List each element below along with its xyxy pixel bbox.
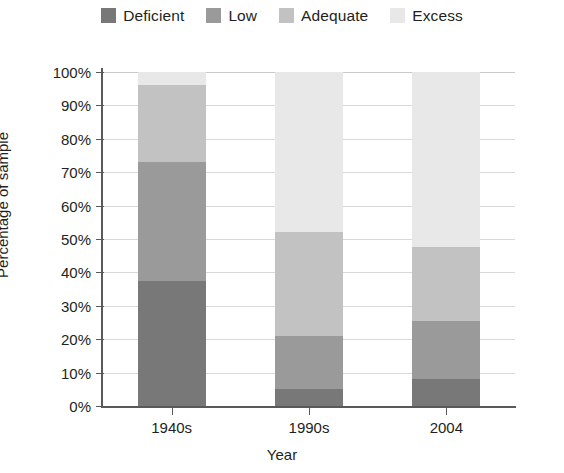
x-tick-label-1990s: 1990s: [289, 419, 330, 436]
y-axis-tick: [96, 406, 104, 407]
y-tick-label: 20%: [61, 331, 91, 348]
x-axis-tick: [446, 406, 447, 415]
bar-segment-2004-low: [412, 321, 480, 379]
chart-legend: Deficient Low Adequate Excess: [0, 8, 564, 23]
bar-1990s: [275, 72, 343, 406]
y-tick-label: 90%: [61, 97, 91, 114]
legend-swatch-deficient: [101, 8, 116, 23]
y-axis-title: Percentage of sample: [0, 132, 11, 278]
y-axis-tick: [96, 105, 104, 106]
bar-segment-1990s-low: [275, 336, 343, 389]
x-axis-tick: [309, 406, 310, 415]
y-axis-tick: [96, 239, 104, 240]
legend-swatch-adequate: [279, 8, 294, 23]
y-axis-tick: [96, 206, 104, 207]
y-tick-label: 50%: [61, 231, 91, 248]
legend-item-excess: Excess: [390, 8, 463, 23]
bar-segment-1940s-adequate: [138, 85, 206, 162]
bar-segment-1990s-deficient: [275, 389, 343, 406]
y-axis-tick: [96, 72, 104, 73]
bar-1940s: [138, 72, 206, 406]
bar-segment-2004-adequate: [412, 247, 480, 320]
y-tick-label: 30%: [61, 297, 91, 314]
bar-segment-2004-deficient: [412, 379, 480, 406]
legend-label-low: Low: [228, 8, 257, 23]
legend-swatch-low: [206, 8, 221, 23]
bar-segment-2004-excess: [412, 72, 480, 247]
x-tick-label-1940s: 1940s: [151, 419, 192, 436]
y-tick-label: 0%: [69, 398, 91, 415]
legend-item-adequate: Adequate: [279, 8, 368, 23]
x-axis-title: Year: [0, 446, 564, 463]
y-axis-tick: [96, 172, 104, 173]
y-axis-tick: [96, 139, 104, 140]
bar-segment-1990s-excess: [275, 72, 343, 232]
legend-item-low: Low: [206, 8, 257, 23]
legend-label-excess: Excess: [412, 8, 463, 23]
legend-item-deficient: Deficient: [101, 8, 184, 23]
y-tick-label: 100%: [53, 64, 91, 81]
y-axis-tick: [96, 339, 104, 340]
y-axis-tick: [96, 272, 104, 273]
plot-area: 0%10%20%30%40%50%60%70%80%90%100%: [103, 72, 515, 406]
y-tick-label: 60%: [61, 197, 91, 214]
y-axis-tick: [96, 373, 104, 374]
legend-swatch-excess: [390, 8, 405, 23]
y-axis-tick: [96, 306, 104, 307]
bar-segment-1990s-adequate: [275, 232, 343, 336]
bar-2004: [412, 72, 480, 406]
stacked-bar-chart: Deficient Low Adequate Excess Percentage…: [0, 0, 564, 473]
legend-label-deficient: Deficient: [123, 8, 184, 23]
bar-segment-1940s-deficient: [138, 281, 206, 406]
y-tick-label: 70%: [61, 164, 91, 181]
bar-segment-1940s-excess: [138, 72, 206, 85]
legend-label-adequate: Adequate: [301, 8, 368, 23]
x-axis-tick: [172, 406, 173, 415]
y-tick-label: 40%: [61, 264, 91, 281]
x-tick-label-2004: 2004: [430, 419, 463, 436]
y-tick-label: 80%: [61, 130, 91, 147]
bar-segment-1940s-low: [138, 162, 206, 281]
y-tick-label: 10%: [61, 364, 91, 381]
